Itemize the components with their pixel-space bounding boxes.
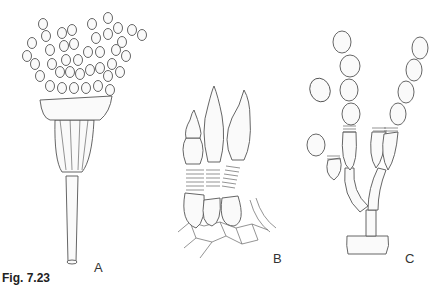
panel-b-drawing (178, 86, 276, 258)
panel-c-drawing (306, 31, 428, 254)
figure-caption: Fig. 7.23 (2, 271, 50, 285)
panel-a-drawing (23, 13, 147, 265)
panel-label-a: A (94, 260, 103, 275)
panel-label-b: B (273, 251, 282, 266)
panel-label-c: C (405, 251, 414, 266)
